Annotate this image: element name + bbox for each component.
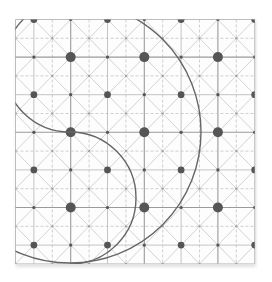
tiny-dot (198, 263, 200, 265)
small-dot (253, 56, 256, 59)
small-dot (32, 56, 35, 59)
medium-dot (31, 16, 38, 23)
small-dot (180, 206, 183, 209)
small-dot (253, 206, 256, 209)
small-dot (143, 93, 146, 96)
large-dot (213, 52, 223, 62)
tiny-dot (14, 188, 16, 190)
tiny-dot (125, 150, 127, 152)
medium-dot (104, 16, 111, 23)
tiny-dot (51, 37, 53, 39)
large-dot (213, 203, 223, 213)
small-dot (216, 168, 219, 171)
small-dot (106, 56, 109, 59)
tiny-dot (88, 75, 90, 77)
tiny-dot (88, 112, 90, 114)
large-dot (139, 52, 149, 62)
tiny-dot (198, 75, 200, 77)
grid-diagram (0, 0, 272, 282)
diagonal-line (255, 20, 272, 264)
tiny-dot (162, 75, 164, 77)
tiny-dot (14, 75, 16, 77)
large-dot (66, 203, 76, 213)
tiny-dot (88, 150, 90, 152)
tiny-dot (88, 37, 90, 39)
tiny-dot (14, 150, 16, 152)
tiny-dot (162, 112, 164, 114)
tiny-dot (198, 225, 200, 227)
tiny-dot (125, 263, 127, 265)
large-dot (139, 127, 149, 137)
medium-dot (178, 16, 185, 23)
medium-dot (104, 91, 111, 98)
tiny-dot (51, 75, 53, 77)
tiny-dot (235, 112, 237, 114)
tiny-dot (125, 37, 127, 39)
small-dot (106, 131, 109, 134)
small-dot (69, 244, 72, 247)
tiny-dot (125, 188, 127, 190)
small-dot (32, 206, 35, 209)
tiny-dot (162, 263, 164, 265)
medium-dot (178, 91, 185, 98)
tiny-dot (125, 225, 127, 227)
small-dot (69, 18, 72, 21)
medium-dot (178, 242, 185, 249)
tiny-dot (162, 188, 164, 190)
tiny-dot (88, 188, 90, 190)
medium-dot (104, 242, 111, 249)
large-dot (213, 127, 223, 137)
diagonal-line (0, 20, 71, 264)
tiny-dot (235, 75, 237, 77)
small-dot (216, 93, 219, 96)
diagonal-line (0, 20, 52, 264)
medium-dot (31, 167, 38, 174)
small-dot (143, 244, 146, 247)
diagonal-line (0, 20, 199, 264)
tiny-dot (162, 150, 164, 152)
small-dot (143, 168, 146, 171)
tiny-dot (51, 188, 53, 190)
small-dot (69, 93, 72, 96)
tiny-dot (51, 150, 53, 152)
medium-dot (104, 167, 111, 174)
small-dot (32, 131, 35, 134)
small-dot (216, 244, 219, 247)
medium-dot (31, 91, 38, 98)
small-dot (216, 18, 219, 21)
tiny-dot (235, 37, 237, 39)
small-dot (69, 168, 72, 171)
diagonal-line (0, 20, 16, 264)
tiny-dot (125, 112, 127, 114)
small-dot (253, 131, 256, 134)
small-dot (180, 56, 183, 59)
medium-dot (178, 167, 185, 174)
tiny-dot (51, 263, 53, 265)
tiny-dot (198, 188, 200, 190)
tiny-dot (14, 112, 16, 114)
tiny-dot (88, 263, 90, 265)
tiny-dot (235, 150, 237, 152)
figure-canvas (0, 0, 272, 282)
medium-dot (31, 242, 38, 249)
tiny-dot (51, 112, 53, 114)
tiny-dot (125, 75, 127, 77)
tiny-dot (235, 263, 237, 265)
tiny-dot (235, 225, 237, 227)
tiny-dot (198, 37, 200, 39)
tiny-dot (14, 225, 16, 227)
large-dot (66, 52, 76, 62)
large-dot (139, 203, 149, 213)
tiny-dot (235, 188, 237, 190)
tiny-dot (88, 225, 90, 227)
tiny-dot (14, 263, 16, 265)
diagonal-line (0, 20, 89, 264)
tiny-dot (51, 225, 53, 227)
tiny-dot (14, 37, 16, 39)
small-dot (180, 131, 183, 134)
small-dot (106, 206, 109, 209)
small-dot (143, 18, 146, 21)
